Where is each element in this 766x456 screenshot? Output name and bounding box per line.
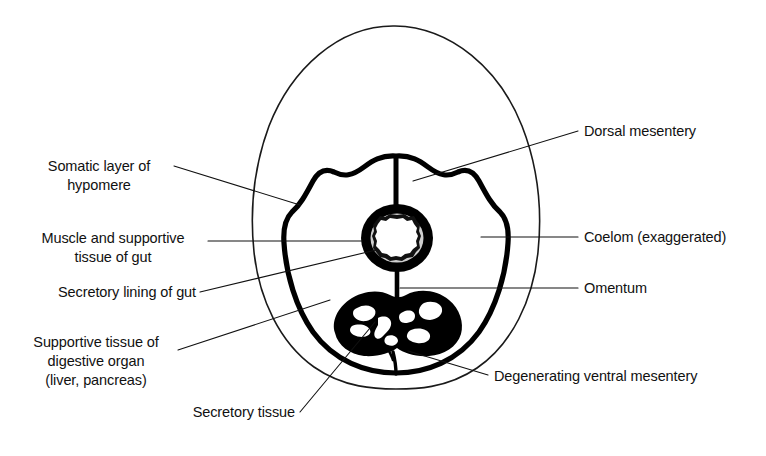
secretory-lining-text: Secretory lining of gut [58, 284, 196, 300]
somatic-layer-line2: hypomere [67, 177, 131, 193]
leader-dorsal-mesentery [413, 131, 578, 181]
supportive-organ-line3: (liver, pancreas) [45, 372, 146, 388]
omentum-text: Omentum [584, 280, 647, 296]
label-somatic-layer: Somatic layer of hypomere [48, 158, 151, 193]
cross-section-diagram: Somatic layer of hypomere Muscle and sup… [0, 0, 766, 456]
muscle-gut-line2: tissue of gut [75, 249, 152, 265]
leader-secretory-lining [200, 250, 376, 292]
gut-cross-section [361, 204, 433, 272]
dorsal-mesentery-text: Dorsal mesentery [584, 123, 697, 139]
secretory-tissue-text: Secretory tissue [193, 404, 295, 420]
label-muscle-gut: Muscle and supportive tissue of gut [42, 230, 185, 265]
anatomical-figure: Somatic layer of hypomere Muscle and sup… [0, 0, 766, 456]
somatic-layer-line1: Somatic layer of [48, 158, 151, 174]
coelom-text: Coelom (exaggerated) [584, 229, 726, 245]
label-supportive-organ: Supportive tissue of digestive organ (li… [33, 334, 159, 388]
leader-somatic-layer [174, 166, 300, 205]
digestive-organ-body [334, 291, 462, 356]
label-secretory-tissue: Secretory tissue [193, 404, 295, 420]
supportive-organ-line2: digestive organ [48, 353, 145, 369]
label-secretory-lining: Secretory lining of gut [58, 284, 196, 300]
muscle-gut-line1: Muscle and supportive [42, 230, 185, 246]
label-omentum: Omentum [584, 280, 647, 296]
supportive-organ-line1: Supportive tissue of [33, 334, 159, 350]
liver-pancreas-mass [334, 291, 462, 356]
label-ventral-mesentery: Degenerating ventral mesentery [494, 368, 698, 384]
label-dorsal-mesentery: Dorsal mesentery [584, 123, 697, 139]
ventral-mesentery-text: Degenerating ventral mesentery [494, 368, 698, 384]
label-coelom: Coelom (exaggerated) [584, 229, 726, 245]
